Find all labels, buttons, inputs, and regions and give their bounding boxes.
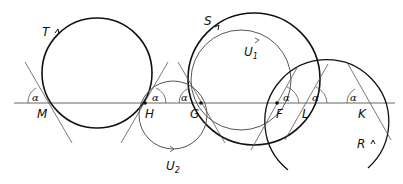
alpha-label-G: α: [181, 92, 188, 103]
point-label-K: K: [358, 107, 367, 121]
circle-T: [42, 18, 152, 128]
point-label-M: M: [37, 107, 48, 121]
geometry-figure: α α α α α α M H G F L K T S U1 U2 R: [0, 0, 403, 184]
point-label-F: F: [276, 107, 284, 121]
tangent-lines: [25, 62, 391, 150]
point-label-L: L: [302, 107, 309, 121]
tangent-L: [285, 64, 328, 140]
alpha-label-H: α: [152, 92, 159, 103]
point-H-dot: [143, 101, 147, 105]
point-F-dot: [275, 101, 279, 105]
alpha-label-F: α: [283, 92, 290, 103]
alpha-label-M: α: [32, 92, 39, 103]
circle-U1-arrow-icon: [255, 38, 259, 43]
point-G-dot: [199, 101, 203, 105]
circle-T-arrow-icon: [55, 29, 59, 34]
point-label-H: H: [145, 107, 154, 121]
circle-R-arrow-icon: [371, 140, 375, 144]
circle-label-S: S: [204, 14, 212, 28]
circle-label-U1: U1: [244, 45, 258, 61]
circle-label-U2: U2: [166, 159, 180, 175]
diagram-canvas: α α α α α α M H G F L K T S U1 U2 R: [0, 0, 403, 184]
alpha-label-K: α: [350, 92, 357, 103]
circle-R-arc: [265, 60, 389, 170]
circle-label-T: T: [42, 25, 51, 39]
circle-S: [188, 13, 320, 145]
circle-label-R: R: [357, 137, 365, 151]
tangent-F: [251, 66, 298, 150]
alpha-label-L: α: [312, 92, 319, 103]
point-label-G: G: [190, 107, 199, 121]
